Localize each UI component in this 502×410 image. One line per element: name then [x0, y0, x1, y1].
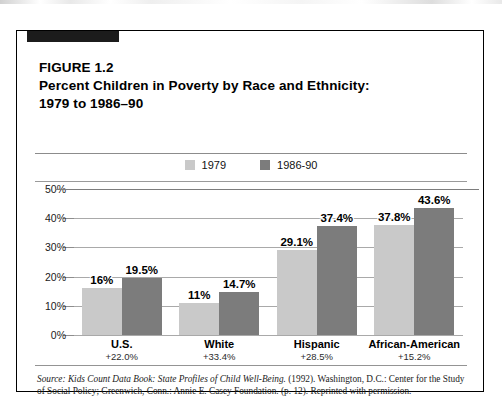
title-divider — [35, 153, 467, 154]
bar-group: 11%14.7% — [171, 189, 269, 335]
bar-value-label: 19.5% — [125, 264, 158, 276]
source-divider — [35, 365, 467, 366]
y-axis-tick-label: 20% — [45, 271, 66, 283]
bar-value-label: 43.6% — [418, 194, 451, 206]
figure-title-block: FIGURE 1.2 Percent Children in Poverty b… — [39, 59, 459, 113]
bar-1986-90[interactable]: 14.7% — [219, 189, 259, 335]
source-note: Source: Kids Count Data Book: State Prof… — [37, 373, 469, 397]
category-name: White — [171, 337, 269, 351]
bar-value-label: 37.4% — [320, 212, 353, 224]
y-axis-tick-label: 0% — [51, 329, 66, 341]
bar-value-label: 14.7% — [223, 278, 256, 290]
bar-1979[interactable]: 29.1% — [277, 189, 317, 335]
figure-title-line-1: Percent Children in Poverty by Race and … — [39, 77, 459, 95]
bar-group: 29.1%37.4% — [268, 189, 366, 335]
bar-rect — [122, 278, 162, 335]
category-percent-change: +22.0% — [73, 351, 171, 363]
scan-artifact-strip — [0, 0, 502, 4]
black-corner-tab — [27, 31, 119, 42]
bar-1979[interactable]: 11% — [179, 189, 219, 335]
bar-rect — [179, 303, 219, 335]
category-percent-change: +28.5% — [268, 351, 366, 363]
y-axis-tick-label: 30% — [45, 241, 66, 253]
bar-groups: 16%19.5%11%14.7%29.1%37.4%37.8%43.6% — [73, 189, 463, 335]
bar-1986-90[interactable]: 37.4% — [317, 189, 357, 335]
category-name: U.S. — [73, 337, 171, 351]
gridline: 0% — [73, 335, 463, 336]
category-label-group: U.S.+22.0% — [73, 337, 171, 363]
bar-rect — [317, 226, 357, 335]
bar-rect — [414, 208, 454, 335]
bar-rect — [277, 250, 317, 335]
category-label-group: African-American+15.2% — [366, 337, 464, 363]
bar-value-label: 16% — [90, 274, 113, 286]
bar-group: 16%19.5% — [73, 189, 171, 335]
category-label-group: Hispanic+28.5% — [268, 337, 366, 363]
category-percent-change: +33.4% — [171, 351, 269, 363]
bar-rect — [82, 288, 122, 335]
legend-label: 1986-90 — [277, 159, 317, 171]
legend-divider — [35, 181, 467, 182]
bar-rect — [219, 292, 259, 335]
bar-1986-90[interactable]: 19.5% — [122, 189, 162, 335]
category-labels: U.S.+22.0%White+33.4%Hispanic+28.5%Afric… — [73, 337, 463, 363]
x-axis-line — [55, 189, 479, 190]
chart-legend: 19791986-90 — [17, 159, 485, 171]
source-title: Kids Count Data Book: State Profiles of … — [68, 374, 286, 384]
figure-title-line-2: 1979 to 1986–90 — [39, 95, 459, 113]
category-label-group: White+33.4% — [171, 337, 269, 363]
figure-box: FIGURE 1.2 Percent Children in Poverty b… — [16, 30, 484, 392]
y-axis-tick-label: 10% — [45, 300, 66, 312]
figure-number: FIGURE 1.2 — [39, 59, 459, 77]
bar-value-label: 37.8% — [378, 211, 411, 223]
legend-item-1979[interactable]: 1979 — [185, 159, 226, 171]
category-name: Hispanic — [268, 337, 366, 351]
y-axis-tick-label: 40% — [45, 212, 66, 224]
bar-rect — [374, 225, 414, 335]
bar-value-label: 29.1% — [280, 236, 313, 248]
bar-value-label: 11% — [188, 289, 210, 301]
bar-1979[interactable]: 37.8% — [374, 189, 414, 335]
legend-swatch-icon — [260, 160, 270, 170]
legend-swatch-icon — [185, 160, 195, 170]
bar-1986-90[interactable]: 43.6% — [414, 189, 454, 335]
category-name: African-American — [366, 337, 464, 351]
legend-item-1986-90[interactable]: 1986-90 — [260, 159, 317, 171]
legend-label: 1979 — [202, 159, 226, 171]
bar-1979[interactable]: 16% — [82, 189, 122, 335]
chart-plot-area: 50%40%30%20%10%0% 16%19.5%11%14.7%29.1%3… — [35, 189, 467, 335]
bar-group: 37.8%43.6% — [366, 189, 464, 335]
category-percent-change: +15.2% — [366, 351, 464, 363]
bar-plot: 50%40%30%20%10%0% 16%19.5%11%14.7%29.1%3… — [73, 189, 463, 335]
source-label: Source: — [37, 374, 66, 384]
